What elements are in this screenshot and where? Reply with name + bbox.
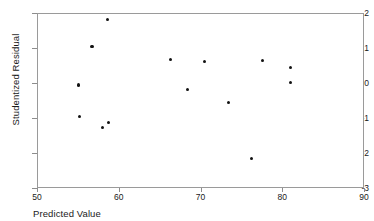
x-axis-title: Predicted Value: [33, 208, 101, 219]
data-point: [227, 101, 230, 104]
data-point: [107, 121, 110, 124]
data-point: [169, 58, 172, 61]
x-tick-label: 50: [25, 193, 49, 202]
data-point: [203, 60, 206, 63]
data-point: [101, 126, 104, 129]
data-point: [289, 66, 292, 69]
data-point: [78, 115, 81, 118]
x-tick-label: 70: [189, 193, 213, 202]
x-tick-label: 90: [352, 193, 374, 202]
x-tick-label: 60: [107, 193, 131, 202]
data-point: [289, 81, 292, 84]
data-point: [90, 45, 93, 48]
data-point: [77, 83, 80, 86]
data-point: [261, 59, 264, 62]
x-tick-label: 80: [270, 193, 294, 202]
data-point: [186, 88, 189, 91]
data-point: [106, 18, 109, 21]
data-point: [250, 157, 253, 160]
y-axis-title: Studentized Residual: [10, 10, 21, 150]
plot-area: [37, 13, 364, 188]
